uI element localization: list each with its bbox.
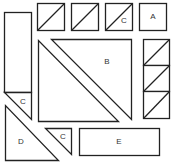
half-square-triangle-1 (38, 4, 65, 31)
rectangle-e: E (80, 129, 160, 156)
label-d: D (18, 137, 24, 146)
square-a: A (140, 4, 167, 31)
label-b: B (104, 57, 109, 66)
quilt-layout-diagram: C A C B D C E (0, 0, 171, 167)
label-c-top: C (121, 16, 127, 25)
label-e: E (116, 137, 121, 146)
label-c-left: C (20, 97, 26, 106)
half-square-triangle-2 (72, 4, 99, 31)
right-column (144, 40, 170, 119)
label-c-bottom: C (60, 132, 66, 141)
left-strip: C (5, 13, 32, 120)
label-a: A (150, 12, 156, 21)
half-square-triangle-c: C (106, 4, 133, 31)
